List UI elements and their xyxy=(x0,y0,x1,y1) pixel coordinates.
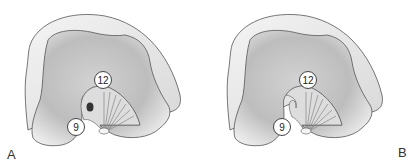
panel-a: 12 9 A xyxy=(0,0,208,168)
clock-marker-9: 9 xyxy=(273,118,291,136)
panel-label-a: A xyxy=(7,147,16,162)
clock-marker-12: 12 xyxy=(94,71,112,89)
panel-b: 12 9 B xyxy=(208,0,416,168)
clock-marker-12: 12 xyxy=(299,71,317,89)
panel-label-b: B xyxy=(398,145,407,160)
clock-marker-9: 9 xyxy=(67,118,85,136)
